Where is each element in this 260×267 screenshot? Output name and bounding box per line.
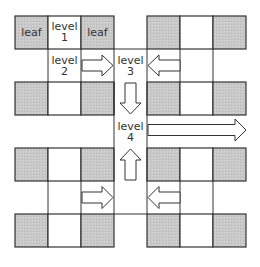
level2-label: level 2 [48,55,81,77]
gray-cell [81,214,114,247]
level1-label: level 1 [48,21,81,43]
gray-cell [15,148,48,181]
level-number: 2 [48,66,81,77]
leaf-text: leaf [15,27,48,38]
gray-cell [15,82,48,115]
gray-cell [147,82,180,115]
gray-cell [147,16,180,49]
gray-cell [213,148,246,181]
gray-cell [15,214,48,247]
white-cell [180,82,213,115]
arrow-up-icon [120,149,141,180]
arrow-right-icon [82,187,113,209]
gray-cell [147,214,180,247]
white-cell [180,16,213,49]
gray-cell [213,82,246,115]
level-number: 4 [114,132,147,143]
gray-cell [81,148,114,181]
level-number: 3 [114,66,147,77]
arrow-left-icon [148,55,180,76]
gray-cell [147,148,180,181]
level3-label: level 3 [114,55,147,77]
white-cell [48,214,81,247]
arrow-right-icon [148,119,246,141]
level4-label: level 4 [114,121,147,143]
leaf-text: leaf [81,27,114,38]
white-cell [180,214,213,247]
gray-cell [81,82,114,115]
tree-level-diagram: leaf level 1 leaf level 2 level 3 level … [0,0,260,267]
arrow-right-icon [82,55,113,76]
white-cell [48,82,81,115]
gray-cell [213,16,246,49]
white-cell [48,148,81,181]
white-cell [180,148,213,181]
arrow-down-icon [120,83,141,114]
leaf-label-left: leaf [15,27,48,38]
arrow-left-icon [148,187,180,209]
gray-cell [213,214,246,247]
leaf-label-right: leaf [81,27,114,38]
level-number: 1 [48,32,81,43]
